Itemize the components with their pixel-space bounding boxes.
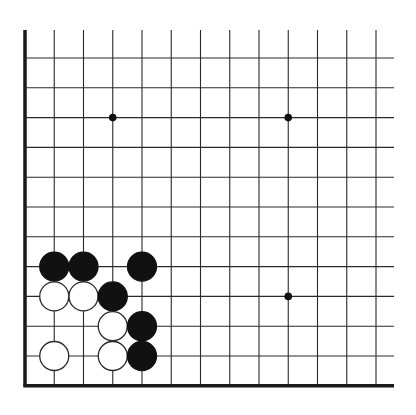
white-stone[interactable] <box>40 282 69 311</box>
white-stone[interactable] <box>40 342 69 371</box>
white-stone[interactable] <box>69 282 98 311</box>
black-stone[interactable] <box>128 252 157 281</box>
white-stone[interactable] <box>98 312 127 341</box>
black-stone[interactable] <box>69 252 98 281</box>
star-point-icon <box>109 114 117 122</box>
star-point-icon <box>284 114 292 122</box>
board-grid <box>23 30 394 386</box>
stones-layer <box>40 252 157 370</box>
black-stone[interactable] <box>98 282 127 311</box>
black-stone[interactable] <box>128 312 157 341</box>
star-point-icon <box>284 293 292 301</box>
black-stone[interactable] <box>40 252 69 281</box>
white-stone[interactable] <box>98 342 127 371</box>
black-stone[interactable] <box>128 342 157 371</box>
go-board <box>0 0 416 415</box>
